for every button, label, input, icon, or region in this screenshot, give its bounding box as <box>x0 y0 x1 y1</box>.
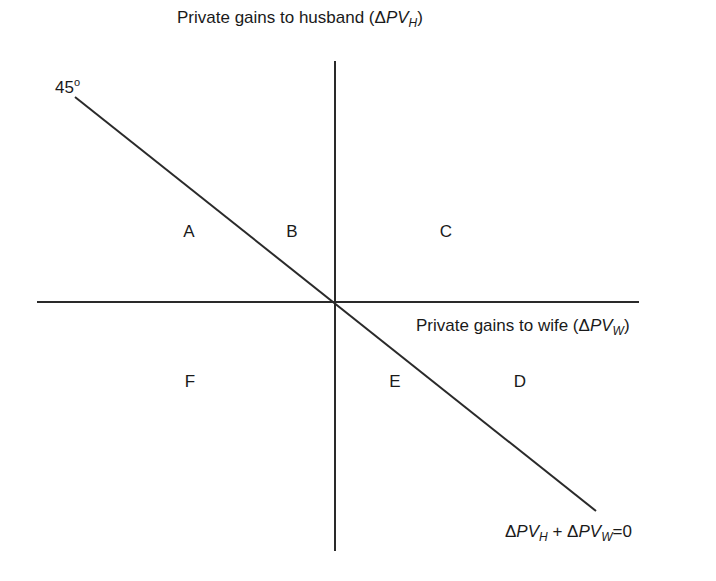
paren: ) <box>417 8 423 27</box>
subscript: H <box>539 530 548 544</box>
region-d: D <box>514 372 526 392</box>
x-axis-label-text: Private gains to wife ( <box>416 316 579 335</box>
delta-symbol: Δ <box>505 522 516 541</box>
x-axis-label: Private gains to wife (ΔPVW) <box>416 316 630 336</box>
delta-symbol: Δ <box>567 522 578 541</box>
variable: PV <box>386 8 409 27</box>
y-axis-label-text: Private gains to husband ( <box>177 8 375 27</box>
subscript: W <box>601 530 612 544</box>
region-f: F <box>185 372 195 392</box>
region-e: E <box>389 372 400 392</box>
angle-label: 45o <box>55 72 80 98</box>
variable: PV <box>578 522 601 541</box>
angle-value: 45 <box>55 78 74 97</box>
y-axis-label: Private gains to husband (ΔPVH) <box>177 8 423 28</box>
plus: + <box>548 522 567 541</box>
degree-symbol: o <box>74 76 80 88</box>
variable: PV <box>516 522 539 541</box>
region-c: C <box>440 222 452 242</box>
delta-symbol: Δ <box>579 316 590 335</box>
delta-symbol: Δ <box>375 8 386 27</box>
diagram-lines <box>0 0 716 581</box>
subscript: W <box>613 324 624 338</box>
equals-zero: =0 <box>612 522 631 541</box>
region-a: A <box>183 222 194 242</box>
subscript: H <box>409 16 418 30</box>
paren: ) <box>624 316 630 335</box>
zero-sum-line-label: ΔPVH + ΔPVW=0 <box>505 522 632 542</box>
variable: PV <box>590 316 613 335</box>
region-b: B <box>286 222 297 242</box>
